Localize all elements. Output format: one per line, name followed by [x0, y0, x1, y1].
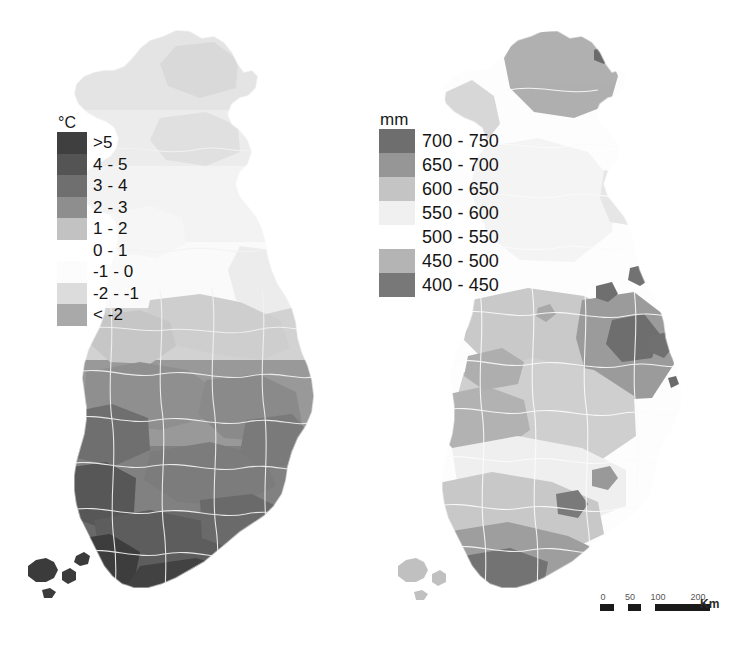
scale-bar: 0 50 100 200 Km: [600, 592, 720, 611]
legend-swatch: [57, 283, 87, 305]
legend-item[interactable]: 450 - 500: [379, 249, 499, 273]
legend-swatch: [57, 154, 87, 176]
scale-bar-unit-label: Km: [700, 597, 719, 611]
legend-label: >5: [87, 132, 113, 154]
legend-swatch: [57, 175, 87, 197]
legend-item[interactable]: 1 - 2: [57, 218, 139, 240]
legend-label: 1 - 2: [87, 218, 128, 240]
legend-temperature-rows: >5 4 - 5 3 - 4 2 - 3 1 - 2: [57, 132, 139, 326]
legend-item[interactable]: 400 - 450: [379, 273, 499, 297]
legend-item[interactable]: -1 - 0: [57, 261, 139, 283]
legend-label: < -2: [87, 304, 123, 326]
legend-item[interactable]: < -2: [57, 304, 139, 326]
legend-swatch: [57, 218, 87, 240]
legend-swatch: [379, 129, 415, 153]
scale-tick-label: 100: [650, 592, 665, 602]
legend-item[interactable]: 600 - 650: [379, 177, 499, 201]
legend-item[interactable]: 650 - 700: [379, 153, 499, 177]
scale-segment: [628, 604, 642, 611]
legend-swatch: [57, 240, 87, 262]
legend-label: 0 - 1: [87, 240, 128, 262]
temperature-regions: [0, 0, 368, 648]
legend-label: -2 - -1: [87, 283, 139, 305]
legend-swatch: [57, 132, 87, 154]
legend-swatch: [379, 225, 415, 249]
scale-bar-track: [600, 604, 710, 611]
legend-swatch: [379, 273, 415, 297]
map-panel-temperature[interactable]: °C >5 4 - 5 3 - 4 2 - 3: [0, 0, 368, 648]
legend-label: 400 - 450: [415, 273, 499, 297]
legend-item[interactable]: 700 - 750: [379, 129, 499, 153]
climate-maps-figure: °C >5 4 - 5 3 - 4 2 - 3: [0, 0, 735, 648]
legend-label: 450 - 500: [415, 249, 499, 273]
legend-swatch: [379, 153, 415, 177]
legend-label: 550 - 600: [415, 201, 499, 225]
legend-item[interactable]: 500 - 550: [379, 225, 499, 249]
map-panel-precipitation[interactable]: mm 700 - 750 650 - 700 600 - 650 550 - 6…: [368, 0, 735, 648]
legend-swatch: [57, 197, 87, 219]
scale-segment: [641, 604, 655, 611]
legend-item[interactable]: >5: [57, 132, 139, 154]
scale-segment: [600, 604, 614, 611]
temperature-choropleth-svg: [0, 0, 368, 648]
legend-swatch: [57, 261, 87, 283]
precipitation-regions: [368, 0, 735, 648]
legend-item[interactable]: 2 - 3: [57, 197, 139, 219]
scale-tick-label: 0: [600, 592, 605, 602]
legend-swatch: [379, 177, 415, 201]
legend-label: -1 - 0: [87, 261, 133, 283]
legend-item[interactable]: -2 - -1: [57, 283, 139, 305]
legend-label: 3 - 4: [87, 175, 128, 197]
legend-label: 700 - 750: [415, 129, 499, 153]
legend-precipitation-rows: 700 - 750 650 - 700 600 - 650 550 - 600 …: [379, 129, 499, 297]
legend-item[interactable]: 3 - 4: [57, 175, 139, 197]
legend-label: 650 - 700: [415, 153, 499, 177]
legend-item[interactable]: 0 - 1: [57, 240, 139, 262]
precipitation-choropleth-svg: [368, 0, 735, 648]
legend-label: 4 - 5: [87, 154, 128, 176]
legend-temperature: °C >5 4 - 5 3 - 4 2 - 3: [57, 115, 139, 326]
legend-swatch: [57, 304, 87, 326]
scale-segment: [614, 604, 628, 611]
legend-item[interactable]: 550 - 600: [379, 201, 499, 225]
scale-tick-label: 50: [625, 592, 635, 602]
legend-label: 600 - 650: [415, 177, 499, 201]
legend-swatch: [379, 201, 415, 225]
legend-precipitation-title: mm: [379, 112, 499, 127]
legend-label: 500 - 550: [415, 225, 499, 249]
legend-swatch: [379, 249, 415, 273]
legend-label: 2 - 3: [87, 197, 128, 219]
legend-precipitation: mm 700 - 750 650 - 700 600 - 650 550 - 6…: [379, 112, 499, 297]
legend-item[interactable]: 4 - 5: [57, 154, 139, 176]
legend-temperature-title: °C: [57, 115, 139, 130]
